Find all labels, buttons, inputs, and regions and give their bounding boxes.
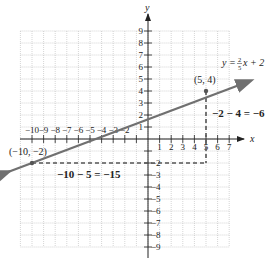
point-5-4-label: (5, 4) [194, 74, 216, 86]
x-tick-label: −4 [97, 125, 107, 135]
svg-text:x + 2: x + 2 [242, 57, 264, 68]
y-tick-label: −7 [151, 218, 161, 228]
point-5-4 [204, 89, 208, 93]
x-tick-label: −10 [25, 125, 40, 135]
y-tick-label: −5 [151, 194, 161, 204]
x-tick-label: −5 [85, 125, 95, 135]
y-tick-label: −4 [151, 182, 161, 192]
point-neg10-neg2 [30, 161, 34, 165]
line-equation-label: y = 2 5 x + 2 [221, 56, 264, 71]
svg-text:2: 2 [238, 56, 241, 63]
x-tick-label: 1 [157, 142, 162, 152]
x-tick-label: −6 [74, 125, 84, 135]
y-tick-label: −3 [151, 170, 161, 180]
point-neg10-neg2-label: (−10, −2) [9, 146, 47, 158]
coordinate-plane: −10−9−8−7−6−5−4−3−21234567987654321−2−3−… [0, 0, 267, 265]
x-tick-label: 3 [181, 142, 186, 152]
y-tick-label: 5 [139, 74, 144, 84]
y-tick-label: 8 [139, 38, 144, 48]
x-tick-label: 7 [227, 142, 232, 152]
x-tick-label: −8 [50, 125, 60, 135]
x-tick-label: 4 [192, 142, 197, 152]
y-tick-label: 6 [139, 62, 144, 72]
rise-equation: −2 − 4 = −6 [212, 107, 265, 119]
y-tick-label: 4 [139, 86, 144, 96]
x-axis-label: x [249, 133, 255, 144]
x-tick-label: 6 [215, 142, 220, 152]
svg-text:y =: y = [221, 57, 236, 68]
y-axis-label: y [144, 2, 150, 13]
y-tick-label: 2 [139, 110, 144, 120]
x-tick-label: −7 [62, 125, 72, 135]
y-tick-label: 9 [139, 26, 144, 36]
y-tick-label: −6 [151, 206, 161, 216]
y-tick-label: −8 [151, 230, 161, 240]
run-equation: −10 − 5 = −15 [57, 168, 121, 180]
svg-text:5: 5 [238, 64, 241, 71]
y-tick-label: −9 [151, 242, 161, 252]
y-tick-label: 3 [139, 98, 144, 108]
x-tick-label: −9 [39, 125, 49, 135]
x-tick-label: 2 [169, 142, 174, 152]
y-tick-label: 7 [139, 50, 144, 60]
